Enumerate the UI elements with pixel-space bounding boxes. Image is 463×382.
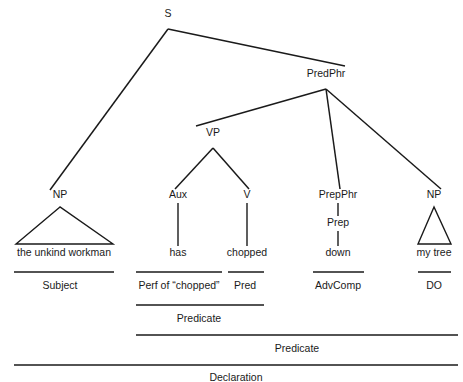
tree-canvas: S PredPhr VP NP Aux V PrepPhr NP Prep th…: [0, 0, 463, 382]
function-label: Pred: [234, 279, 256, 291]
node-s: S: [164, 7, 171, 19]
branch-lines: [50, 29, 441, 190]
terminal-prep-word: down: [325, 246, 350, 258]
object-np-triangle: [418, 207, 451, 244]
terminal-aux-word: has: [170, 246, 187, 258]
function-label: DO: [426, 279, 442, 291]
terminal-words: the unkind workman has chopped down my t…: [17, 246, 452, 258]
branch-vp-to-v: [213, 148, 249, 189]
function-group: Pred: [228, 272, 264, 291]
syntax-tree-diagram: S PredPhr VP NP Aux V PrepPhr NP Prep th…: [0, 0, 463, 382]
subject-np-triangle: [16, 207, 113, 244]
function-group: DO: [418, 272, 451, 291]
function-group: Declaration: [14, 365, 458, 382]
node-np-object: NP: [427, 188, 442, 200]
function-group: Perf of “chopped”: [136, 272, 222, 291]
function-label: Declaration: [209, 371, 262, 382]
terminal-subject-words: the unkind workman: [17, 246, 111, 258]
function-group: Predicate: [136, 335, 458, 354]
branch-predphr-to-vp: [196, 89, 326, 126]
terminal-object-words: my tree: [416, 246, 451, 258]
node-prep: Prep: [327, 216, 349, 228]
branch-vp-to-aux: [175, 148, 213, 189]
function-label: Perf of “chopped”: [138, 279, 220, 291]
function-label: AdvComp: [315, 279, 361, 291]
node-np-subject: NP: [53, 188, 68, 200]
function-label: Predicate: [177, 312, 222, 324]
function-group: Predicate: [136, 305, 264, 324]
stem-lines: [178, 203, 338, 246]
branch-s-to-predphr: [168, 29, 345, 66]
function-label: Predicate: [275, 342, 320, 354]
function-group: Subject: [14, 272, 114, 291]
node-prepphr: PrepPhr: [319, 188, 358, 200]
terminal-v-word: chopped: [227, 246, 267, 258]
phrase-triangles: [16, 207, 451, 244]
node-vp: VP: [206, 126, 220, 138]
category-node-labels: S PredPhr VP NP Aux V PrepPhr NP Prep: [53, 7, 442, 228]
node-v: V: [243, 188, 250, 200]
function-group: AdvComp: [313, 272, 364, 291]
branch-predphr-to-prepphr: [326, 89, 340, 189]
node-aux: Aux: [169, 188, 188, 200]
branch-s-to-np: [50, 29, 168, 190]
function-label: Subject: [42, 279, 77, 291]
branch-predphr-to-np: [326, 89, 441, 189]
function-bracket-rows: SubjectPerf of “chopped”PredAdvCompDOPre…: [14, 272, 458, 382]
node-predphr: PredPhr: [307, 67, 346, 79]
